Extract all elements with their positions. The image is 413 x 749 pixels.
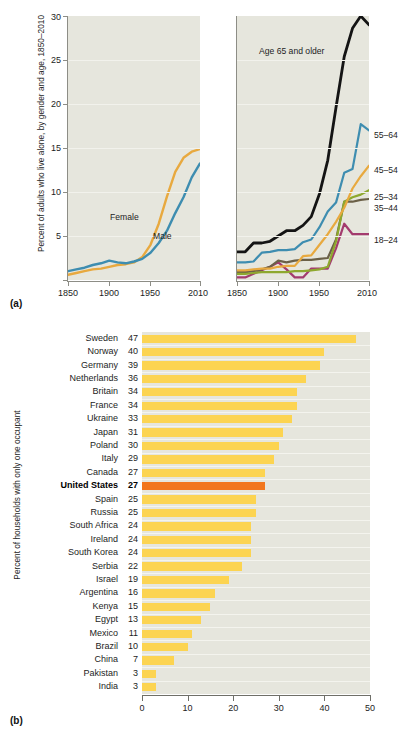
bar[interactable] bbox=[142, 495, 256, 503]
bar-row-value-label: 22 bbox=[120, 561, 138, 571]
bar-x-tick-mark bbox=[279, 696, 280, 701]
bar-row-value-label: 15 bbox=[120, 601, 138, 611]
bar-row-country-label: Germany bbox=[30, 360, 118, 370]
figure-container: Percent of adults who live alone, by gen… bbox=[0, 0, 413, 749]
bar-x-tick-mark bbox=[370, 696, 371, 701]
bar[interactable] bbox=[142, 536, 251, 544]
bar[interactable] bbox=[142, 469, 265, 477]
bar-row-separator bbox=[142, 560, 370, 561]
bar-row-country-label: Netherlands bbox=[30, 373, 118, 383]
x-tick-1900-left: 1900 bbox=[99, 288, 119, 298]
bar-row-country-label: Israel bbox=[30, 574, 118, 584]
bar-row-separator bbox=[142, 466, 370, 467]
x-tick-1900-right: 1900 bbox=[268, 288, 288, 298]
bar[interactable] bbox=[142, 643, 188, 651]
bar-row-separator bbox=[142, 412, 370, 413]
bar-row-country-label: Canada bbox=[30, 467, 118, 477]
bar[interactable] bbox=[142, 455, 274, 463]
bar[interactable] bbox=[142, 428, 283, 436]
bar-row-value-label: 24 bbox=[120, 520, 138, 530]
bar[interactable] bbox=[142, 522, 251, 530]
bar-row-separator bbox=[142, 399, 370, 400]
bar-row-separator bbox=[142, 453, 370, 454]
bar[interactable] bbox=[142, 603, 210, 611]
bar-row-country-label: Poland bbox=[30, 440, 118, 450]
bar-highlighted[interactable] bbox=[142, 482, 265, 490]
bar-row-separator bbox=[142, 479, 370, 480]
bar-row-separator bbox=[142, 506, 370, 507]
bar[interactable] bbox=[142, 402, 297, 410]
bar-row-value-label: 19 bbox=[120, 574, 138, 584]
bar-row-value-label: 27 bbox=[120, 480, 138, 490]
bar-row-separator bbox=[142, 426, 370, 427]
panel-a-tag: (a) bbox=[10, 298, 22, 309]
chart-age-y-axis bbox=[236, 16, 237, 281]
bar-row-country-label: Ukraine bbox=[30, 413, 118, 423]
bar[interactable] bbox=[142, 415, 292, 423]
bar-row-country-label: Brazil bbox=[30, 641, 118, 651]
bar-row-separator bbox=[142, 439, 370, 440]
chart-gender-plot-area: Female Male bbox=[68, 16, 200, 280]
bar[interactable] bbox=[142, 616, 201, 624]
bar-row-value-label: 36 bbox=[120, 373, 138, 383]
bar-x-tick-mark bbox=[142, 696, 143, 701]
bar[interactable] bbox=[142, 589, 215, 597]
y-tick-20: 20 bbox=[41, 99, 61, 109]
bar-row-value-label: 34 bbox=[120, 400, 138, 410]
series-label-male: Male bbox=[153, 231, 172, 241]
bar[interactable] bbox=[142, 683, 156, 691]
bar-x-tick-label-0: 0 bbox=[139, 703, 144, 713]
bar-row-separator bbox=[142, 667, 370, 668]
bar-x-tick-mark bbox=[324, 696, 325, 701]
bar-row-value-label: 10 bbox=[120, 641, 138, 651]
bar-x-tick-mark bbox=[188, 696, 189, 701]
bar-row-country-label: Ireland bbox=[30, 534, 118, 544]
bar-row-separator bbox=[142, 372, 370, 373]
bar-x-tick-mark bbox=[233, 696, 234, 701]
bar-x-tick-label-20: 20 bbox=[228, 703, 238, 713]
bar[interactable] bbox=[142, 335, 356, 343]
bar-row-separator bbox=[142, 493, 370, 494]
bar-chart-x-axis bbox=[142, 695, 371, 696]
bar-row-value-label: 30 bbox=[120, 440, 138, 450]
bar-row-value-label: 13 bbox=[120, 614, 138, 624]
bar-row-value-label: 25 bbox=[120, 507, 138, 517]
bar-row-value-label: 39 bbox=[120, 360, 138, 370]
bar[interactable] bbox=[142, 549, 251, 557]
x-tick-2010-left: 2010 bbox=[188, 288, 208, 298]
bar[interactable] bbox=[142, 630, 192, 638]
bar-row-value-label: 11 bbox=[120, 628, 138, 638]
bar-row-separator bbox=[142, 359, 370, 360]
bar-row-value-label: 31 bbox=[120, 427, 138, 437]
bar-row-country-label: South Korea bbox=[30, 547, 118, 557]
bar-row-value-label: 34 bbox=[120, 386, 138, 396]
bar-row-country-label: Britain bbox=[30, 386, 118, 396]
bar-row-country-label: India bbox=[30, 681, 118, 691]
bar-row-value-label: 25 bbox=[120, 494, 138, 504]
bar-row-country-label: Serbia bbox=[30, 561, 118, 571]
bar[interactable] bbox=[142, 670, 156, 678]
bar-row-country-label: China bbox=[30, 654, 118, 664]
bar[interactable] bbox=[142, 562, 242, 570]
bar[interactable] bbox=[142, 509, 256, 517]
bar-row-value-label: 3 bbox=[120, 681, 138, 691]
bar[interactable] bbox=[142, 388, 297, 396]
bar[interactable] bbox=[142, 442, 279, 450]
bar[interactable] bbox=[142, 576, 229, 584]
bar-row-separator bbox=[142, 520, 370, 521]
panel-b-bar-chart: Percent of households with only one occu… bbox=[0, 310, 413, 749]
bar-row-value-label: 40 bbox=[120, 346, 138, 356]
bar-row-value-label: 27 bbox=[120, 467, 138, 477]
bar-row-country-label: Sweden bbox=[30, 333, 118, 343]
bar-row-separator bbox=[142, 600, 370, 601]
bar[interactable] bbox=[142, 656, 174, 664]
panel-a-y-axis-label: Percent of adults who live alone, by gen… bbox=[36, 9, 47, 259]
x-tick-1950-right: 1950 bbox=[309, 288, 329, 298]
bar-row-separator bbox=[142, 587, 370, 588]
bar[interactable] bbox=[142, 348, 324, 356]
bar-x-tick-label-50: 50 bbox=[365, 703, 375, 713]
bar-row-value-label: 29 bbox=[120, 453, 138, 463]
bar[interactable] bbox=[142, 375, 306, 383]
bar[interactable] bbox=[142, 361, 320, 369]
legend-label-25-34: 25–34 bbox=[374, 192, 398, 202]
